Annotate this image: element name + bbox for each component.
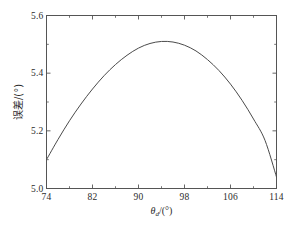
x-tick-label: 114 <box>269 192 284 202</box>
x-axis-title-unit: /(°) <box>159 205 172 216</box>
data-curve <box>47 41 277 177</box>
x-tick-label: 90 <box>134 192 144 202</box>
y-axis-title: 误差/(°) <box>10 84 25 120</box>
x-tick-label: 82 <box>88 192 98 202</box>
y-tick-label: 5.0 <box>31 184 43 194</box>
y-tick-label: 5.6 <box>31 11 43 21</box>
y-tick-label: 5.4 <box>31 68 43 78</box>
x-axis-title: θd/(°) <box>151 205 173 218</box>
series-line <box>47 41 277 177</box>
y-tick-label: 5.2 <box>31 126 43 136</box>
chart-figure: 74829098106114 5.05.25.45.6 θd/(°) 误差/(°… <box>0 0 297 227</box>
x-tick-label: 106 <box>223 192 238 202</box>
x-tick-label: 98 <box>180 192 190 202</box>
